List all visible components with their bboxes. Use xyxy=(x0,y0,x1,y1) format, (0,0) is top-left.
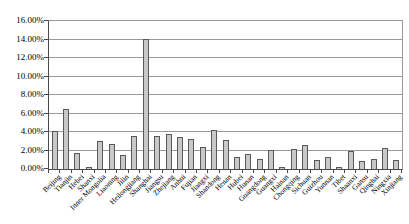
gridline xyxy=(49,131,402,132)
gridline xyxy=(49,76,402,77)
bar xyxy=(348,151,354,169)
y-tick xyxy=(44,150,48,151)
bar xyxy=(393,160,399,169)
bar xyxy=(109,144,115,169)
bar xyxy=(291,149,297,169)
bar xyxy=(268,150,274,169)
x-tick xyxy=(333,170,334,173)
plot-area xyxy=(48,20,403,170)
bar xyxy=(200,147,206,169)
x-tick xyxy=(82,170,83,173)
bar xyxy=(223,140,229,169)
x-tick xyxy=(355,170,356,173)
gridline xyxy=(49,39,402,40)
x-tick xyxy=(401,170,402,173)
y-axis-label: 4.00% xyxy=(21,126,44,136)
y-axis-label: 8.00% xyxy=(21,89,44,99)
x-tick xyxy=(287,170,288,173)
x-tick xyxy=(94,170,95,173)
y-tick xyxy=(44,131,48,132)
y-tick xyxy=(44,57,48,58)
y-tick xyxy=(44,20,48,21)
gridline xyxy=(49,113,402,114)
bar xyxy=(86,167,92,169)
x-tick xyxy=(253,170,254,173)
x-tick xyxy=(196,170,197,173)
x-tick xyxy=(139,170,140,173)
x-tick xyxy=(48,170,49,173)
y-axis-label: 12.00% xyxy=(16,52,44,62)
y-tick xyxy=(44,94,48,95)
bar-chart: 0.00%2.00%4.00%6.00%8.00%10.00%12.00%14.… xyxy=(0,0,409,224)
bar xyxy=(74,153,80,169)
x-tick xyxy=(207,170,208,173)
bar xyxy=(371,159,377,169)
y-axis-label: 6.00% xyxy=(21,108,44,118)
bar xyxy=(279,167,285,169)
bar xyxy=(257,159,263,169)
x-tick xyxy=(150,170,151,173)
x-tick xyxy=(242,170,243,173)
bar xyxy=(302,145,308,169)
bar xyxy=(177,137,183,169)
y-tick xyxy=(44,39,48,40)
bar xyxy=(97,141,103,169)
bar xyxy=(131,136,137,169)
y-axis-label: 14.00% xyxy=(16,34,44,44)
x-tick xyxy=(116,170,117,173)
x-tick xyxy=(264,170,265,173)
bar xyxy=(188,139,194,169)
x-tick xyxy=(378,170,379,173)
y-tick xyxy=(44,113,48,114)
bar xyxy=(211,130,217,169)
x-tick xyxy=(390,170,391,173)
y-tick xyxy=(44,168,48,169)
x-tick xyxy=(321,170,322,173)
x-tick xyxy=(299,170,300,173)
y-axis-label: 2.00% xyxy=(21,145,44,155)
bar xyxy=(359,161,365,169)
x-tick xyxy=(367,170,368,173)
x-tick xyxy=(219,170,220,173)
x-tick xyxy=(276,170,277,173)
bar xyxy=(52,131,58,169)
bar xyxy=(154,136,160,169)
x-tick xyxy=(128,170,129,173)
bar xyxy=(63,109,69,169)
x-tick xyxy=(185,170,186,173)
x-tick xyxy=(173,170,174,173)
bar xyxy=(336,167,342,169)
x-tick xyxy=(105,170,106,173)
x-tick xyxy=(344,170,345,173)
x-tick xyxy=(162,170,163,173)
y-tick xyxy=(44,76,48,77)
bar xyxy=(143,39,149,169)
bar xyxy=(120,155,126,169)
y-axis-label: 10.00% xyxy=(16,71,44,81)
bar xyxy=(382,148,388,169)
gridline xyxy=(49,94,402,95)
x-tick xyxy=(59,170,60,173)
bar xyxy=(325,157,331,169)
y-axis-label: 0.00% xyxy=(21,163,44,173)
bar xyxy=(234,157,240,169)
gridline xyxy=(49,57,402,58)
bar xyxy=(166,134,172,169)
x-tick xyxy=(71,170,72,173)
y-axis-label: 16.00% xyxy=(16,15,44,25)
x-tick xyxy=(310,170,311,173)
bar xyxy=(314,160,320,169)
x-tick xyxy=(230,170,231,173)
bar xyxy=(245,154,251,169)
